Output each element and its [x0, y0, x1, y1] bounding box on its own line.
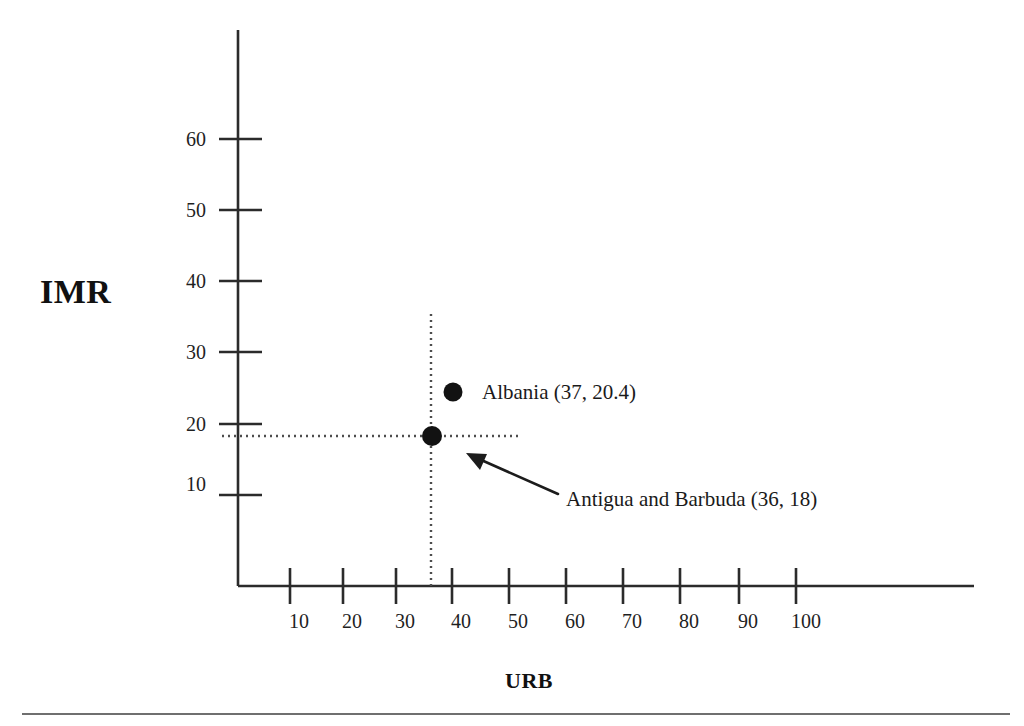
- x-tick-label-50: 50: [508, 611, 528, 631]
- y-axis-title: IMR: [40, 275, 111, 309]
- scatter-chart-figure: IMR URB 60 50 40 30 20 10 10 20 30 40 50…: [0, 0, 1024, 726]
- y-tick-label-60: 60: [150, 129, 206, 149]
- y-tick-label-50: 50: [150, 200, 206, 220]
- x-tick-label-70: 70: [622, 611, 642, 631]
- x-tick-label-100: 100: [791, 611, 821, 631]
- data-point-albania-legend-marker[interactable]: [444, 383, 463, 402]
- x-tick-label-60: 60: [565, 611, 585, 631]
- x-tick-label-40: 40: [451, 611, 471, 631]
- x-tick-label-80: 80: [679, 611, 699, 631]
- x-axis-title: URB: [505, 670, 553, 692]
- x-tick-label-10: 10: [289, 611, 309, 631]
- data-point-antigua-and-barbuda[interactable]: [422, 426, 442, 446]
- y-tick-label-40: 40: [150, 271, 206, 291]
- y-tick-label-10: 10: [150, 474, 206, 494]
- x-tick-label-30: 30: [395, 611, 415, 631]
- y-axis-ticks: [219, 139, 262, 495]
- y-tick-label-30: 30: [150, 342, 206, 362]
- x-tick-label-90: 90: [738, 611, 758, 631]
- data-label-antigua-and-barbuda: Antigua and Barbuda (36, 18): [566, 489, 817, 510]
- antigua-annotation-arrow: [466, 453, 558, 494]
- data-label-albania: Albania (37, 20.4): [482, 382, 636, 403]
- x-tick-label-20: 20: [342, 611, 362, 631]
- y-tick-label-20: 20: [150, 414, 206, 434]
